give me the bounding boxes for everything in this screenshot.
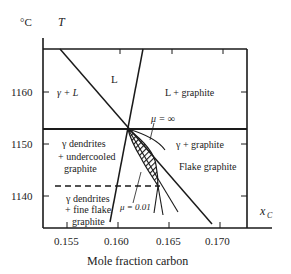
svg-text:γ dendrites: γ dendrites xyxy=(61,138,106,149)
x-tick-0165: 0.165 xyxy=(156,235,181,247)
y-tick-1160: 1160 xyxy=(11,86,33,98)
x-axis-label: Mole fraction carbon xyxy=(87,254,188,268)
y-axis-symbol: T xyxy=(58,15,66,29)
region-fine-flake: γ dendrites + fine flake graphite xyxy=(65,193,112,227)
x-axis-symbol: x xyxy=(259,204,266,218)
y-unit-label: °C xyxy=(20,16,32,28)
svg-text:+ undercooled: + undercooled xyxy=(58,151,116,162)
y-tick-1140: 1140 xyxy=(11,190,33,202)
region-flake-graphite: Flake graphite xyxy=(179,161,237,172)
x-axis-symbol-sub: C xyxy=(267,211,273,220)
region-liquid: L xyxy=(111,73,118,85)
region-gamma-graphite: γ + graphite xyxy=(175,139,224,150)
lower-right-branch xyxy=(158,186,163,215)
svg-text:γ dendrites: γ dendrites xyxy=(65,193,110,204)
mu-001-pointer xyxy=(133,172,141,203)
svg-text:graphite: graphite xyxy=(64,163,97,174)
phase-diagram: °C T 1160 1150 1140 0.155 0.160 0.165 0.… xyxy=(0,0,291,274)
y-tick-1150: 1150 xyxy=(11,138,33,150)
x-tick-0160: 0.160 xyxy=(104,235,129,247)
region-undercooled: γ dendrites + undercooled graphite xyxy=(58,138,116,174)
region-gamma-liquid: γ + L xyxy=(57,87,79,98)
x-tick-0170: 0.170 xyxy=(205,235,230,247)
x-tick-0155: 0.155 xyxy=(54,235,79,247)
mu-001-label: μ = 0.01 xyxy=(119,202,151,212)
region-liquid-graphite: L + graphite xyxy=(165,87,215,98)
lower-left-branch xyxy=(154,186,158,213)
mu-inf-pointer xyxy=(150,123,154,140)
mu-infinity-label: μ = ∞ xyxy=(150,113,175,124)
gamma-graphite-boundary xyxy=(128,129,178,212)
svg-text:graphite: graphite xyxy=(72,216,105,227)
svg-text:+ fine flake: + fine flake xyxy=(65,204,112,215)
